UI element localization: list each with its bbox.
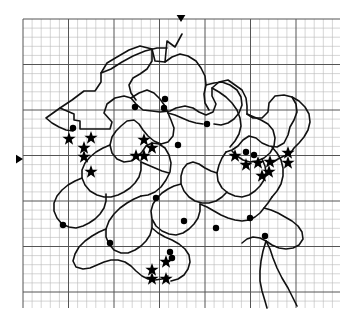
- dot-site-marker: [251, 152, 257, 158]
- outline-segment: [212, 88, 241, 147]
- dot-site-marker: [204, 121, 210, 127]
- outline-segment: [141, 162, 169, 173]
- dot-site-marker: [247, 215, 253, 221]
- site-distribution-map: [0, 0, 360, 329]
- star-site-marker: [137, 133, 150, 146]
- outline-segment: [54, 178, 106, 228]
- dot-site-marker: [175, 142, 181, 148]
- dot-site-marker: [132, 104, 138, 110]
- dot-site-marker: [60, 222, 66, 228]
- figure-root: [0, 0, 360, 329]
- star-site-marker: [77, 150, 90, 163]
- dot-site-marker: [167, 249, 173, 255]
- dot-site-marker: [213, 225, 219, 231]
- dot-site-marker: [243, 149, 249, 155]
- dot-site-marker: [181, 218, 187, 224]
- grid-minor-lines: [23, 19, 340, 308]
- dot-site-marker: [107, 240, 113, 246]
- outline-segment: [260, 241, 267, 308]
- dot-site-marker: [153, 195, 159, 201]
- dot-site-marker: [161, 105, 167, 111]
- dot-site-marker: [70, 125, 76, 131]
- outline-segment: [106, 196, 152, 253]
- dot-site-marker: [262, 233, 268, 239]
- left-axis-marker: [16, 155, 23, 164]
- outline-segment: [168, 113, 203, 124]
- dot-site-marker: [162, 96, 168, 102]
- outline-segment: [290, 97, 310, 154]
